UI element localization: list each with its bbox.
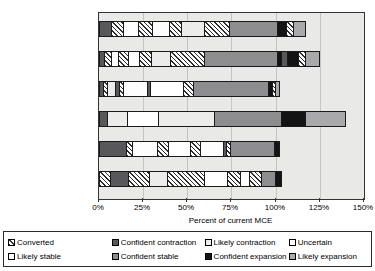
legend-label: Converted <box>17 238 54 247</box>
segment-converted <box>168 172 205 186</box>
segment-confident-expansion <box>282 112 306 126</box>
legend-label: Uncertain <box>298 238 332 247</box>
segment-uncertain <box>128 112 159 126</box>
segment-likely-contraction <box>108 82 116 96</box>
legend-label: Confident stable <box>121 252 179 261</box>
segment-likely-stable <box>241 172 250 186</box>
segment-converted <box>139 22 153 36</box>
segment-confident-contraction <box>100 112 108 126</box>
segment-converted <box>170 22 182 36</box>
legend-item-confident-expansion[interactable]: Confident expansion <box>205 252 289 261</box>
xtick-0 <box>98 198 99 202</box>
segment-likely-expansion <box>306 112 345 126</box>
segment-uncertain <box>205 172 228 186</box>
segment-converted <box>228 172 240 186</box>
legend-item-likely-contraction[interactable]: Likely contraction <box>205 238 289 247</box>
legend-row-1: Converted Confident contraction Likely c… <box>8 235 367 249</box>
segment-confident-stable <box>262 172 276 186</box>
segment-likely-stable <box>133 142 158 156</box>
xtick-150 <box>363 198 364 202</box>
segment-confident-contraction <box>100 22 112 36</box>
likely-contraction-swatch-icon <box>205 239 212 246</box>
segment-converted <box>158 142 169 156</box>
segment-likely-expansion <box>306 52 319 66</box>
stacked-bar-south-africa[interactable] <box>99 141 280 157</box>
stacked-bar-california-and-mexico[interactable] <box>99 81 280 97</box>
xtick-label-125: 125% <box>299 203 339 213</box>
stacked-bar-australia[interactable] <box>99 171 282 187</box>
segment-confident-stable <box>230 22 278 36</box>
uncertain-swatch-icon <box>289 239 296 246</box>
legend-item-confident-contraction[interactable]: Confident contraction <box>112 238 205 247</box>
likely-expansion-swatch-icon <box>289 253 296 260</box>
legend-item-likely-expansion[interactable]: Likely expansion <box>289 252 367 261</box>
segment-converted <box>205 22 230 36</box>
plot-area <box>98 12 365 200</box>
legend-label: Confident expansion <box>214 252 287 261</box>
segment-uncertain <box>112 52 119 66</box>
xtick-label-150: 150% <box>343 203 375 213</box>
gridline-125 <box>320 13 321 199</box>
segment-converted <box>299 52 306 66</box>
legend-item-confident-stable[interactable]: Confident stable <box>112 252 205 261</box>
segment-likely-contraction <box>150 172 168 186</box>
segment-converted <box>184 82 195 96</box>
xtick-label-25: 25% <box>122 203 162 213</box>
xtick-label-0: 0% <box>78 203 118 213</box>
stacked-bar-global[interactable] <box>99 21 306 37</box>
legend-label: Confident contraction <box>121 238 197 247</box>
segment-confident-expansion <box>288 52 299 66</box>
xtick-125 <box>319 198 320 202</box>
segment-converted <box>250 172 262 186</box>
segment-uncertain <box>151 82 183 96</box>
segment-confident-expansion <box>278 22 287 36</box>
segment-uncertain <box>124 22 139 36</box>
converted-swatch-icon <box>8 239 15 246</box>
segment-confident-stable <box>231 142 275 156</box>
segment-likely-expansion <box>294 22 305 36</box>
legend-label: Likely contraction <box>214 238 276 247</box>
legend-label: Likely expansion <box>298 252 357 261</box>
segment-likely-stable <box>153 22 171 36</box>
x-axis-title: Percent of current MCE <box>98 216 363 225</box>
legend-item-likely-stable[interactable]: Likely stable <box>8 252 112 261</box>
xtick-label-100: 100% <box>255 203 295 213</box>
segment-confident-contraction <box>100 142 127 156</box>
segment-confident-contraction <box>111 172 129 186</box>
xtick-label-50: 50% <box>166 203 206 213</box>
segment-likely-contraction <box>159 112 215 126</box>
segment-uncertain <box>169 142 191 156</box>
segment-likely-contraction <box>182 22 205 36</box>
segment-converted <box>171 52 204 66</box>
segment-converted <box>112 22 123 36</box>
segment-confident-stable <box>205 52 278 66</box>
confident-contraction-swatch-icon <box>112 239 119 246</box>
segment-converted <box>140 52 151 66</box>
xtick-25 <box>142 198 143 202</box>
segment-likely-contraction <box>152 52 172 66</box>
segment-likely-stable <box>124 82 149 96</box>
xtick-label-75: 75% <box>210 203 250 213</box>
segment-converted <box>100 172 111 186</box>
segment-confident-stable <box>194 82 269 96</box>
segment-converted <box>191 142 202 156</box>
segment-confident-expansion <box>275 142 279 156</box>
confident-expansion-swatch-icon <box>205 253 212 260</box>
segment-confident-expansion <box>276 172 281 186</box>
segment-likely-expansion <box>276 82 279 96</box>
segment-likely-stable <box>129 52 140 66</box>
stacked-bar-mediterranean-basin[interactable] <box>99 51 320 67</box>
segment-likely-stable <box>201 142 224 156</box>
legend-label: Likely stable <box>17 252 61 261</box>
legend-item-converted[interactable]: Converted <box>8 238 112 247</box>
xtick-75 <box>230 198 231 202</box>
segment-likely-contraction <box>108 112 128 126</box>
segment-converted <box>119 52 129 66</box>
xtick-50 <box>186 198 187 202</box>
stacked-bar-chile-and-argentina[interactable] <box>99 111 346 127</box>
segment-converted <box>129 172 150 186</box>
segment-confident-stable <box>215 112 282 126</box>
legend-item-uncertain[interactable]: Uncertain <box>289 238 367 247</box>
legend-row-2: Likely stable Confident stable Confident… <box>8 249 367 263</box>
likely-stable-swatch-icon <box>8 253 15 260</box>
